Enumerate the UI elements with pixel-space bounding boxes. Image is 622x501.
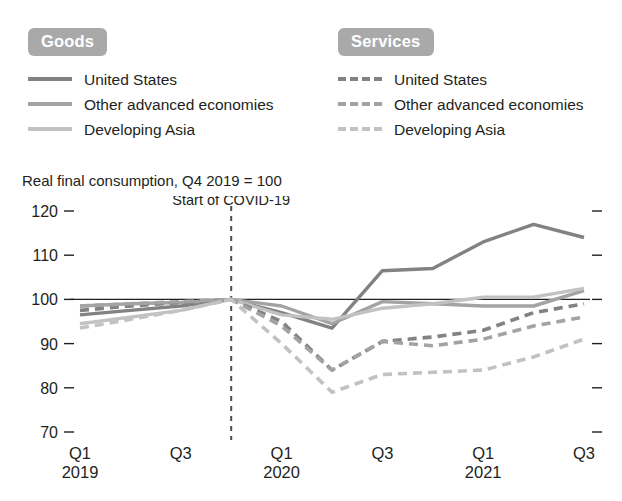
legend-item-goods-united-states[interactable]: United States [28, 67, 274, 92]
series-lines [80, 224, 584, 392]
legend-item-label: United States [394, 72, 487, 88]
legend-swatch-dashed-line-icon [338, 127, 382, 131]
x-tick-label: Q12020 [263, 444, 300, 483]
y-tick-label: 100 [31, 291, 58, 308]
legend-swatch-line-icon [28, 77, 72, 81]
x-tick-year: 2019 [62, 463, 99, 482]
legend-item-label: Developing Asia [84, 122, 195, 138]
x-tick-label: Q12021 [465, 444, 502, 483]
legend-swatch-line-icon [28, 102, 72, 106]
x-axis: Q12019Q3Q12020Q3Q12021Q3 [0, 440, 622, 501]
y-axis-right-ticks [592, 211, 602, 432]
x-tick-label: Q3 [573, 444, 595, 463]
y-tick-label: 110 [32, 247, 58, 264]
y-tick-label: 70 [40, 424, 58, 441]
legend-item-goods-other-advanced-economies[interactable]: Other advanced economies [28, 92, 274, 117]
legend-goods: Goods United States Other advanced econo… [28, 28, 274, 142]
x-tick-label: Q3 [170, 444, 192, 463]
legend-items-services: United States Other advanced economies D… [338, 67, 584, 142]
legend-item-services-united-states[interactable]: United States [338, 67, 584, 92]
legend-item-label: Other advanced economies [84, 97, 274, 113]
y-axis: 708090100110120 [31, 203, 74, 441]
y-tick-label: 90 [40, 336, 58, 353]
line-chart: 708090100110120 Start of COVID-19 [0, 196, 622, 446]
legend-services: Services United States Other advanced ec… [338, 28, 584, 142]
x-tick-quarter: Q3 [573, 444, 595, 463]
legend-item-services-developing-asia[interactable]: Developing Asia [338, 117, 584, 142]
series-line-services-united-states [80, 299, 584, 370]
legend-swatch-line-icon [28, 127, 72, 131]
legend-item-goods-developing-asia[interactable]: Developing Asia [28, 117, 274, 142]
x-tick-quarter: Q3 [371, 444, 393, 463]
legend-item-label: Other advanced economies [394, 97, 584, 113]
legend-items-goods: United States Other advanced economies D… [28, 67, 274, 142]
legend-swatch-dashed-line-icon [338, 77, 382, 81]
legend-badge-goods: Goods [28, 28, 107, 56]
legend-badge-services: Services [338, 28, 434, 56]
x-tick-year: 2021 [465, 463, 502, 482]
x-tick-quarter: Q3 [170, 444, 192, 463]
x-tick-label: Q12019 [62, 444, 99, 483]
x-tick-quarter: Q1 [465, 444, 502, 463]
series-line-services-other-advanced-economies [80, 299, 584, 370]
legend-swatch-dashed-line-icon [338, 102, 382, 106]
y-tick-label: 120 [31, 203, 58, 220]
legend-item-label: United States [84, 72, 177, 88]
y-tick-label: 80 [40, 380, 58, 397]
x-tick-quarter: Q1 [62, 444, 99, 463]
legend-item-label: Developing Asia [394, 122, 505, 138]
x-tick-year: 2020 [263, 463, 300, 482]
legend-item-services-other-advanced-economies[interactable]: Other advanced economies [338, 92, 584, 117]
chart-plot-area: 708090100110120 Start of COVID-19 [0, 196, 622, 446]
series-line-services-developing-asia [80, 299, 584, 392]
x-tick-quarter: Q1 [263, 444, 300, 463]
covid-annotation-label: Start of COVID-19 [172, 196, 290, 208]
chart-subtitle: Real final consumption, Q4 2019 = 100 [22, 172, 282, 189]
x-tick-label: Q3 [371, 444, 393, 463]
